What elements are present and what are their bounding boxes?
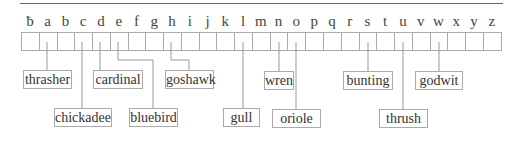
bucket-cell (306, 32, 324, 51)
bucket-cell (377, 32, 395, 51)
letter: g (145, 12, 163, 30)
letter: e (110, 12, 128, 30)
letter: n (270, 12, 288, 30)
bucket-array (21, 32, 502, 51)
letter: u (394, 12, 412, 30)
letter: a (39, 12, 57, 30)
bucket-cell (360, 32, 378, 51)
letter: b (57, 12, 75, 30)
letter: q (323, 12, 341, 30)
letter: z (483, 12, 501, 30)
bucket-cell (466, 32, 484, 51)
label-thrasher: thrasher (23, 70, 72, 89)
letter: j (199, 12, 217, 30)
bucket-cell (58, 32, 76, 51)
bucket-cell (146, 32, 164, 51)
label-oriole: oriole (272, 109, 321, 128)
letter: w (430, 12, 448, 30)
label-bluebird: bluebird (129, 108, 178, 127)
bucket-cell (342, 32, 360, 51)
label-godwit: godwit (415, 71, 463, 90)
bucket-cell (129, 32, 147, 51)
bucket-cell (395, 32, 413, 51)
label-cardinal: cardinal (93, 70, 143, 89)
bucket-cell (484, 32, 502, 51)
letter: ƀ (21, 12, 39, 30)
letter: h (163, 12, 181, 30)
bucket-cell (111, 32, 129, 51)
alphabet-row: ƀ a b c d e f g h i j k l m n o p q r s … (21, 12, 501, 30)
top-rule (20, 3, 503, 4)
bucket-cell (448, 32, 466, 51)
bucket-cell (288, 32, 306, 51)
label-goshawk: goshawk (165, 70, 214, 89)
bucket-cell (235, 32, 253, 51)
letter: y (465, 12, 483, 30)
letter: f (128, 12, 146, 30)
letter: s (359, 12, 377, 30)
label-wren: wren (264, 71, 294, 90)
bucket-cell (253, 32, 271, 51)
bucket-cell (40, 32, 58, 51)
bucket-cell (75, 32, 93, 51)
letter: c (74, 12, 92, 30)
label-chickadee: chickadee (54, 108, 112, 127)
letter: p (305, 12, 323, 30)
bucket-cell (93, 32, 111, 51)
bucket-cell (324, 32, 342, 51)
letter: l (234, 12, 252, 30)
bucket-cell (22, 32, 40, 51)
letter: i (181, 12, 199, 30)
letter: o (287, 12, 305, 30)
bucket-cell (164, 32, 182, 51)
bucket-cell (182, 32, 200, 51)
bucket-cell (431, 32, 449, 51)
bucket-cell (413, 32, 431, 51)
letter: r (341, 12, 359, 30)
label-bunting: bunting (343, 71, 393, 90)
letter: x (447, 12, 465, 30)
letter: v (412, 12, 430, 30)
letter: k (216, 12, 234, 30)
letter: m (252, 12, 270, 30)
label-gull: gull (223, 108, 260, 127)
bucket-cell (217, 32, 235, 51)
letter: d (92, 12, 110, 30)
letter: t (376, 12, 394, 30)
label-thrush: thrush (379, 109, 428, 128)
bucket-cell (271, 32, 289, 51)
bucket-cell (200, 32, 218, 51)
